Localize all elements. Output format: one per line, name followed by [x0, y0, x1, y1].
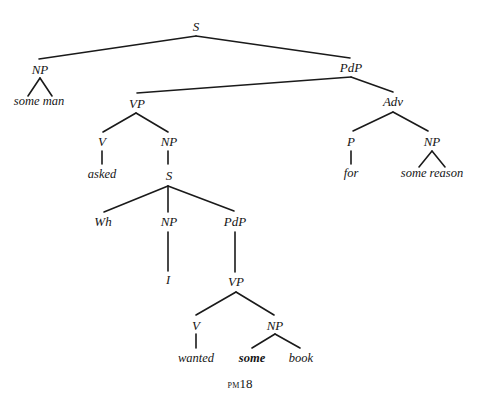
edge-adv-p — [353, 112, 393, 131]
edge-s-pdp2 — [168, 186, 234, 211]
node-predicate-pdp: PdP — [339, 60, 362, 75]
leaf-wanted: wanted — [178, 351, 215, 365]
edge-adv-np — [393, 112, 428, 131]
node-adv: Adv — [382, 94, 403, 109]
tree-nodes: S NP some man PdP VP V asked NP S Wh NP … — [14, 19, 463, 365]
edge-s-wh — [104, 186, 168, 212]
edge-np-book — [275, 334, 300, 348]
syntax-tree-diagram: S NP some man PdP VP V asked NP S Wh NP … — [0, 0, 480, 397]
caption-number: 18 — [240, 376, 253, 391]
node-embedded-object-np: NP — [266, 318, 284, 333]
edge-pdp-vp — [137, 77, 351, 93]
node-embedded-v: V — [192, 318, 202, 333]
leaf-some-reason: some reason — [401, 166, 463, 180]
leaf-asked: asked — [88, 167, 117, 181]
edge-s-pdp — [196, 36, 350, 58]
node-embedded-vp: VP — [228, 274, 244, 289]
tree-edges — [28, 36, 445, 348]
figure-caption: pm18 — [0, 376, 480, 392]
node-embedded-s: S — [166, 168, 173, 183]
leaf-some-bold: some — [238, 351, 266, 365]
edge-vp-v — [103, 113, 136, 132]
node-embedded-np: NP — [160, 214, 178, 229]
node-p: P — [346, 134, 355, 149]
edge-pdp-adv — [351, 77, 393, 92]
edge-vp2-v — [196, 292, 236, 315]
node-root-s: S — [193, 19, 200, 34]
leaf-some-man: some man — [14, 94, 64, 108]
edge-vp2-np — [236, 292, 274, 315]
edge-np-reason-right — [432, 151, 445, 167]
node-wh: Wh — [94, 214, 111, 229]
leaf-book: book — [289, 351, 314, 365]
node-embedded-pdp: PdP — [223, 214, 246, 229]
node-vp: VP — [129, 96, 145, 111]
caption-prefix: pm — [227, 377, 239, 391]
edge-np-reason-left — [419, 151, 432, 167]
leaf-i: I — [165, 273, 171, 287]
node-v: V — [98, 134, 108, 149]
edge-vp-np — [136, 113, 168, 132]
node-adv-np: NP — [423, 134, 441, 149]
node-object-np: NP — [160, 134, 178, 149]
edge-np-some2 — [252, 334, 275, 348]
node-subject-np: NP — [31, 62, 49, 77]
edge-s-np — [39, 36, 196, 59]
leaf-for: for — [344, 166, 359, 180]
